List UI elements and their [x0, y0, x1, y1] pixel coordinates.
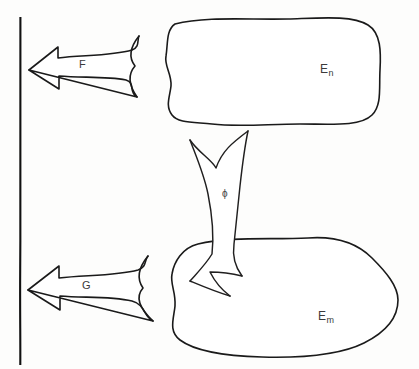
- set-label-em-subscript: m: [326, 315, 334, 325]
- arrow-label-f: F: [79, 58, 86, 70]
- set-label-em-base: E: [318, 309, 326, 323]
- arrow-label-phi: ϕ: [222, 188, 228, 199]
- set-blob-em: [172, 238, 398, 357]
- diagram-svg: [0, 0, 419, 369]
- set-label-em: Em: [318, 309, 334, 325]
- set-label-en: En: [320, 62, 334, 78]
- set-blob-en: [166, 18, 381, 126]
- map-arrow-phi: [190, 131, 248, 296]
- diagram-canvas: F G ϕ En Em: [0, 0, 419, 369]
- arrow-label-g: G: [82, 279, 91, 291]
- set-label-en-subscript: n: [328, 68, 334, 78]
- set-label-en-base: E: [320, 62, 328, 76]
